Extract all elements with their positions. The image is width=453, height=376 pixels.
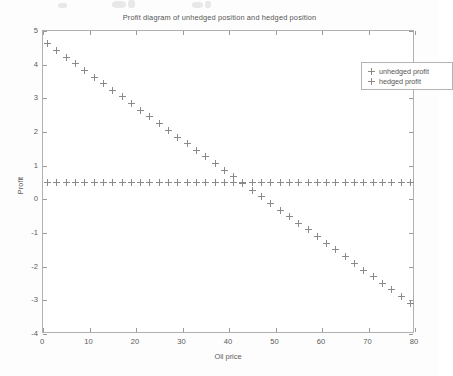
x-tick [183, 328, 184, 332]
x-tick [229, 328, 230, 332]
data-point [137, 179, 144, 186]
data-point [342, 253, 349, 260]
data-point [63, 179, 70, 186]
data-point [174, 179, 181, 186]
data-point [305, 226, 312, 233]
data-point [360, 179, 367, 186]
plus-marker-icon [365, 67, 379, 76]
legend-item: hedged profit [365, 76, 448, 86]
data-point [91, 179, 98, 186]
y-tick [409, 98, 413, 99]
y-tick-label: -3 [16, 295, 38, 304]
x-tick [322, 31, 323, 35]
legend-item: unhedged profit [365, 66, 448, 76]
x-tick-label: 40 [224, 337, 232, 346]
y-axis-title: Profit [16, 156, 25, 216]
data-point [249, 179, 256, 186]
data-point [360, 267, 367, 274]
data-point [212, 179, 219, 186]
x-tick [276, 31, 277, 35]
y-tick [409, 166, 413, 167]
x-tick [90, 328, 91, 332]
data-point [81, 67, 88, 74]
data-point [398, 179, 405, 186]
y-tick [43, 166, 47, 167]
x-tick-label: 70 [363, 337, 371, 346]
x-tick [322, 328, 323, 332]
data-point [119, 179, 126, 186]
data-point [202, 179, 209, 186]
x-tick-label: 80 [410, 337, 418, 346]
data-point [332, 179, 339, 186]
data-point [193, 179, 200, 186]
data-point [128, 179, 135, 186]
data-point [221, 179, 228, 186]
x-tick [369, 328, 370, 332]
y-tick [43, 132, 47, 133]
scan-artifact [0, 0, 439, 10]
y-tick [409, 132, 413, 133]
data-point [91, 74, 98, 81]
x-tick [136, 31, 137, 35]
data-point [277, 207, 284, 214]
data-point [370, 179, 377, 186]
data-point [156, 179, 163, 186]
data-point [295, 179, 302, 186]
data-point [44, 40, 51, 47]
y-tick [409, 31, 413, 32]
data-point [258, 193, 265, 200]
data-point [267, 179, 274, 186]
legend-label: hedged profit [379, 77, 421, 86]
y-tick-label: -1 [16, 228, 38, 237]
data-point [351, 260, 358, 267]
y-tick [43, 31, 47, 32]
data-point [314, 179, 321, 186]
data-point [332, 246, 339, 253]
x-tick [90, 31, 91, 35]
y-tick-label: 2 [16, 127, 38, 136]
data-point [379, 280, 386, 287]
y-tick-label: 5 [16, 26, 38, 35]
y-tick [43, 300, 47, 301]
data-point [267, 200, 274, 207]
data-point [165, 179, 172, 186]
data-point [146, 179, 153, 186]
chart-title: Profit diagram of unhedged position and … [0, 13, 439, 22]
data-point [184, 179, 191, 186]
data-point [407, 179, 414, 186]
data-point [156, 120, 163, 127]
x-tick-label: 30 [177, 337, 185, 346]
data-point [323, 240, 330, 247]
data-point [174, 134, 181, 141]
data-point [72, 179, 79, 186]
y-tick [43, 199, 47, 200]
x-tick-label: 20 [131, 337, 139, 346]
data-point [323, 179, 330, 186]
x-tick-label: 60 [317, 337, 325, 346]
y-tick [43, 267, 47, 268]
y-tick [43, 65, 47, 66]
data-point [370, 273, 377, 280]
data-point [100, 80, 107, 87]
data-point [286, 179, 293, 186]
data-point [221, 167, 228, 174]
x-axis-title: Oil price [42, 352, 414, 361]
x-tick [415, 328, 416, 332]
data-point [53, 47, 60, 54]
y-tick [409, 267, 413, 268]
data-point [239, 179, 246, 186]
data-point [230, 179, 237, 186]
chart-legend: unhedged profithedged profit [361, 62, 453, 90]
data-point [277, 179, 284, 186]
data-point [342, 179, 349, 186]
y-tick [409, 334, 413, 335]
data-point [295, 220, 302, 227]
x-tick-label: 10 [84, 337, 92, 346]
data-point [53, 179, 60, 186]
data-point [184, 140, 191, 147]
x-tick [229, 31, 230, 35]
x-tick [43, 328, 44, 332]
data-point [193, 147, 200, 154]
x-tick-label: 0 [40, 337, 44, 346]
